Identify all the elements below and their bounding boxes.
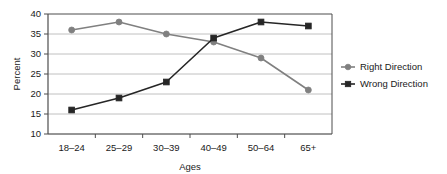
x-axis-title: Ages [179, 161, 201, 172]
y-tick-label-25: 25 [30, 68, 41, 79]
y-axis-title: Percent [11, 57, 22, 90]
x-tick-label-1: 25–29 [106, 142, 132, 153]
y-tick-label-15: 15 [30, 108, 41, 119]
data-point-1 [116, 95, 122, 101]
data-point-5 [305, 23, 311, 29]
legend-marker-circle-icon [345, 64, 351, 70]
y-tick-label-20: 20 [30, 88, 41, 99]
data-point-2 [163, 79, 169, 85]
data-point-4 [258, 55, 264, 61]
x-tick-label-3: 40–49 [200, 142, 226, 153]
data-point-0 [69, 27, 75, 33]
chart-figure: 10152025303540 18–2425–2930–3940–4950–64… [0, 0, 447, 174]
y-tick-label-35: 35 [30, 28, 41, 39]
x-tick-label-5: 65+ [300, 142, 317, 153]
line-chart: 10152025303540 18–2425–2930–3940–4950–64… [0, 0, 447, 174]
data-point-4 [258, 19, 264, 25]
data-point-0 [69, 107, 75, 113]
data-point-1 [116, 19, 122, 25]
data-point-5 [305, 87, 311, 93]
y-tick-label-30: 30 [30, 48, 41, 59]
data-point-2 [163, 31, 169, 37]
x-tick-label-4: 50–64 [248, 142, 274, 153]
y-tick-label-10: 10 [30, 128, 41, 139]
x-tick-label-0: 18–24 [58, 142, 84, 153]
legend-label: Wrong Direction [360, 78, 428, 89]
legend-label: Right Direction [360, 61, 422, 72]
legend-marker-square-icon [345, 81, 350, 86]
x-tick-label-2: 30–39 [153, 142, 179, 153]
data-point-3 [211, 35, 217, 41]
y-tick-label-40: 40 [30, 8, 41, 19]
